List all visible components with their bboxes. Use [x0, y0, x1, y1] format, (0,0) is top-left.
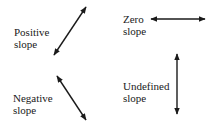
- positive-slope-arrow: [54, 7, 86, 55]
- undefined-slope-label-line1: Undefined: [123, 80, 169, 92]
- zero-slope-label: Zero slope: [123, 13, 146, 37]
- zero-slope-label-line1: Zero: [123, 13, 146, 25]
- undefined-slope-label: Undefined slope: [123, 80, 169, 104]
- positive-slope-label-line2: slope: [14, 38, 49, 50]
- positive-slope-label: Positive slope: [14, 26, 49, 50]
- negative-slope-label-line2: slope: [13, 104, 53, 116]
- undefined-slope-label-line2: slope: [123, 92, 169, 104]
- zero-slope-label-line2: slope: [123, 25, 146, 37]
- positive-slope-label-line1: Positive: [14, 26, 49, 38]
- negative-slope-label: Negative slope: [13, 92, 53, 116]
- negative-slope-label-line1: Negative: [13, 92, 53, 104]
- negative-slope-arrow: [57, 76, 86, 120]
